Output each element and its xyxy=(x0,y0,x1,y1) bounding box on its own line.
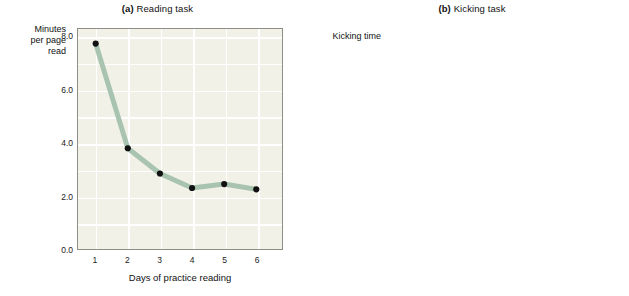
panel-a-title: (a) Reading task xyxy=(0,3,315,14)
panel-a-data-point xyxy=(221,181,227,187)
panel-a-plot-area xyxy=(77,28,283,250)
panel-a-data-point xyxy=(93,41,99,47)
panel-a-title-text: Reading task xyxy=(137,3,194,14)
panel-a-x-tick-1: 1 xyxy=(80,255,110,265)
panel-a-y-tick-4.0: 4.0 xyxy=(37,138,73,148)
panel-a-title-prefix: (a) xyxy=(122,3,134,14)
panel-a-data-point xyxy=(189,185,195,191)
panel-b-kicking-task: (b) Kicking task Kicking time Before see… xyxy=(315,0,629,296)
panel-a-y-axis-title-line-3: read xyxy=(2,46,66,57)
panel-a-x-tick-5: 5 xyxy=(210,255,240,265)
panel-b-title: (b) Kicking task xyxy=(315,3,629,14)
panel-a-y-tick-2.0: 2.0 xyxy=(37,192,73,202)
panel-a-x-tick-2: 2 xyxy=(112,255,142,265)
panel-a-y-tick-0.0: 0.0 xyxy=(37,245,73,255)
panel-a-x-tick-4: 4 xyxy=(177,255,207,265)
panel-a-x-tick-6: 6 xyxy=(242,255,272,265)
panel-a-reading-task: (a) Reading task Minutesper pageread 8.0… xyxy=(0,0,315,296)
figure-two-panel-learning-curves: (a) Reading task Minutesper pageread 8.0… xyxy=(0,0,629,296)
panel-a-y-tick-6.0: 6.0 xyxy=(37,85,73,95)
panel-a-data-point xyxy=(157,170,163,176)
panel-a-data-point xyxy=(253,186,259,192)
panel-b-y-axis-title: Kicking time xyxy=(293,31,381,42)
panel-a-y-tick-8.0: 8.0 xyxy=(37,31,73,41)
panel-a-x-tick-3: 3 xyxy=(145,255,175,265)
panel-b-title-text: Kicking task xyxy=(454,3,506,14)
panel-a-trend-line xyxy=(96,44,257,190)
panel-a-data-point xyxy=(125,145,131,151)
panel-a-data-layer xyxy=(78,29,282,249)
panel-b-title-prefix: (b) xyxy=(438,3,450,14)
panel-a-x-axis-title: Days of practice reading xyxy=(77,272,283,283)
